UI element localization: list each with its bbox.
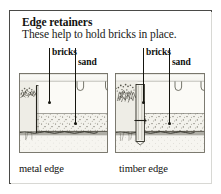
leader-dot-right-sand — [168, 122, 171, 125]
leader-dot-left-bricks — [48, 101, 51, 104]
figure-title: Edge retainers — [22, 16, 92, 28]
panel-timber-edge — [115, 73, 205, 153]
callout-right-bricks: bricks — [146, 47, 171, 57]
leader-line-left-sand — [75, 48, 76, 124]
leader-dot-left-sand — [74, 122, 77, 125]
panel-metal-edge — [19, 73, 108, 153]
callout-right-sand: sand — [172, 57, 191, 67]
leader-dot-right-bricks — [142, 101, 145, 104]
figure-edge-retainers: Edge retainers These help to hold bricks… — [0, 0, 221, 194]
figure-subtitle: These help to hold bricks in place. — [22, 28, 177, 40]
leader-line-right-bricks — [143, 48, 144, 103]
leader-line-right-sand — [169, 48, 170, 124]
caption-metal-edge: metal edge — [19, 163, 64, 174]
callout-left-bricks: bricks — [52, 47, 77, 57]
caption-timber-edge: timber edge — [119, 163, 168, 174]
leader-line-left-bricks — [49, 48, 50, 103]
callout-left-sand: sand — [78, 57, 97, 67]
metal-edge-cross-section — [19, 73, 108, 153]
timber-edge-cross-section — [115, 73, 205, 153]
